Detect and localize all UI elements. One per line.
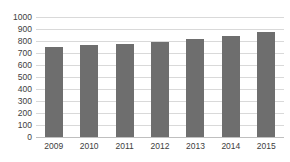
bar (116, 44, 134, 137)
y-axis-tick-label: 1000 (13, 13, 32, 22)
bar-chart: 10009008007006005004003002001000 2009201… (0, 0, 290, 162)
bar (80, 45, 98, 137)
bar (45, 47, 63, 137)
x-axis-tick-label: 2010 (80, 141, 99, 151)
bar-series (36, 17, 284, 137)
chart-title (0, 0, 290, 2)
x-axis-tick-label: 2015 (257, 141, 276, 151)
y-axis-tick-label: 300 (18, 97, 32, 106)
y-axis-tick-label: 700 (18, 49, 32, 58)
y-axis-tick-label: 400 (18, 85, 32, 94)
y-axis-tick-label: 800 (18, 37, 32, 46)
bar (222, 36, 240, 137)
x-axis-tick-label: 2009 (44, 141, 63, 151)
y-axis-tick-label: 500 (18, 73, 32, 82)
y-axis-tick-label: 600 (18, 61, 32, 70)
x-axis-tick-label: 2013 (186, 141, 205, 151)
y-axis-tick-label: 200 (18, 109, 32, 118)
y-axis: 10009008007006005004003002001000 (0, 17, 32, 137)
bar (151, 42, 169, 137)
y-axis-tick-label: 900 (18, 25, 32, 34)
x-axis-tick-label: 2011 (115, 141, 133, 151)
x-axis: 2009201020112012201320142015 (36, 141, 284, 155)
y-axis-tick-label: 0 (27, 133, 32, 142)
bar (257, 32, 275, 137)
gridline (36, 137, 284, 138)
y-axis-tick-label: 100 (18, 121, 32, 130)
bar (186, 39, 204, 137)
x-axis-tick-label: 2014 (221, 141, 240, 151)
x-axis-tick-label: 2012 (151, 141, 170, 151)
plot-area (36, 17, 284, 137)
